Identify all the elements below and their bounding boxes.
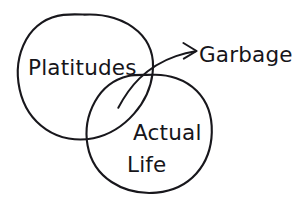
- label-garbage: Garbage: [199, 42, 293, 67]
- diagram-canvas: Platitudes Garbage Actual Life: [0, 0, 293, 204]
- label-platitudes: Platitudes: [28, 55, 137, 80]
- label-actual-life-line1: Actual: [133, 120, 202, 145]
- label-actual-life-line2: Life: [127, 152, 167, 177]
- callout-arrowhead-icon: [183, 43, 196, 59]
- venn-diagram-sketch: Platitudes Garbage Actual Life: [0, 0, 293, 204]
